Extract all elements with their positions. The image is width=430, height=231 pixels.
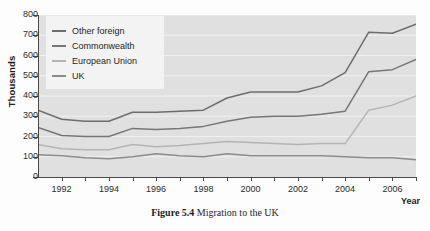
y-tick-label: 200 — [8, 132, 38, 141]
chart-legend: Other foreignCommonwealthEuropean UnionU… — [46, 16, 164, 89]
x-tick-label: 1994 — [89, 184, 129, 194]
x-tick-mark — [251, 177, 252, 181]
legend-swatch-icon — [52, 45, 66, 47]
series-line-2 — [38, 96, 416, 150]
x-tick-label: 1998 — [183, 184, 223, 194]
y-tick-label: 100 — [8, 152, 38, 161]
legend-item: Commonwealth — [52, 38, 158, 53]
x-tick-label: 2000 — [231, 184, 271, 194]
x-axis-title: Year — [401, 196, 420, 206]
x-tick-mark — [369, 177, 370, 181]
x-tick-mark — [203, 177, 204, 181]
figure-caption-text: Migration to the UK — [194, 207, 278, 218]
y-axis-title: Thousands — [6, 47, 17, 117]
x-tick-label: 2006 — [372, 184, 412, 194]
figure-caption-label: Figure 5.4 — [151, 207, 194, 218]
legend-item-label: Commonwealth — [72, 41, 135, 51]
x-tick-mark — [156, 177, 157, 181]
x-tick-label: 2002 — [278, 184, 318, 194]
x-tick-mark — [298, 177, 299, 181]
x-tick-mark — [416, 177, 417, 181]
y-tick-label: 800 — [8, 10, 38, 19]
x-tick-mark — [109, 177, 110, 181]
x-tick-mark — [85, 177, 86, 181]
x-tick-label: 1996 — [136, 184, 176, 194]
figure-caption: Figure 5.4 Migration to the UK — [0, 207, 430, 218]
legend-item: UK — [52, 68, 158, 83]
x-tick-mark — [322, 177, 323, 181]
x-tick-mark — [392, 177, 393, 181]
x-tick-mark — [345, 177, 346, 181]
legend-item-label: European Union — [72, 56, 137, 66]
y-tick-label: 700 — [8, 30, 38, 39]
x-tick-mark — [180, 177, 181, 181]
legend-swatch-icon — [52, 75, 66, 77]
legend-item-label: Other foreign — [72, 26, 125, 36]
x-tick-mark — [133, 177, 134, 181]
x-tick-mark — [62, 177, 63, 181]
x-tick-mark — [274, 177, 275, 181]
x-tick-label: 1992 — [42, 184, 82, 194]
legend-swatch-icon — [52, 30, 66, 32]
legend-swatch-icon — [52, 60, 66, 62]
y-tick-label: 0 — [8, 172, 38, 181]
legend-item: European Union — [52, 53, 158, 68]
x-tick-label: 2004 — [325, 184, 365, 194]
legend-item: Other foreign — [52, 23, 158, 38]
figure-container: 0100200300400500600700800 Thousands Year… — [0, 0, 430, 231]
legend-item-label: UK — [72, 71, 85, 81]
x-tick-mark — [227, 177, 228, 181]
y-axis-line — [38, 15, 39, 178]
